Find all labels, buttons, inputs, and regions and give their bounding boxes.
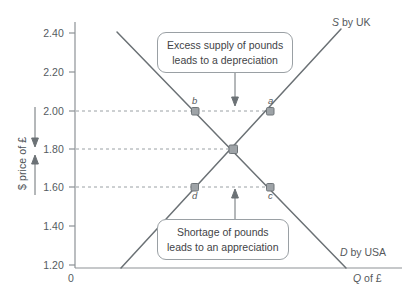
demand-curve-label: D by USA: [340, 246, 386, 258]
axis-origin-label: 0: [68, 272, 74, 284]
y-axis-title: $ price of £: [16, 137, 28, 190]
supply-demand-chart: 2.40 2.20 2.00 1.80 1.60 1.40 1.20 0 $ p…: [0, 0, 407, 295]
supply-curve-rest: by UK: [339, 16, 371, 28]
appreciation-arrow-head: [32, 155, 39, 164]
y-tick-label-220: 2.20: [26, 66, 64, 78]
y-tick-label-240: 2.40: [26, 27, 64, 39]
callout-excess-line1: Excess supply of pounds: [167, 38, 283, 53]
y-tick-label-120: 1.20: [26, 259, 64, 271]
demand-curve-rest: by USA: [348, 246, 387, 258]
point-label-a: a: [268, 95, 273, 106]
marker-point-a: [267, 108, 275, 116]
x-axis-title: Q of £: [353, 272, 382, 284]
demand-curve-symbol: D: [340, 246, 348, 258]
y-tick-label-160: 1.60: [26, 181, 64, 193]
supply-curve-label: S by UK: [332, 16, 371, 28]
y-tick-label-200: 2.00: [26, 105, 64, 117]
marker-equilibrium: [229, 145, 238, 154]
shortage-arrow-head: [232, 189, 239, 198]
guide-lines: [76, 111, 271, 187]
x-axis-symbol: Q: [353, 272, 361, 284]
callout-shortage: Shortage of pounds leads to an appreciat…: [157, 219, 289, 260]
callout-shortage-line2: leads to an appreciation: [167, 240, 279, 255]
callout-excess-line2: leads to a depreciation: [167, 53, 283, 68]
callout-shortage-line1: Shortage of pounds: [167, 225, 279, 240]
supply-curve-symbol: S: [332, 16, 339, 28]
y-axis-ticks: [69, 33, 75, 265]
x-axis-rest: of £: [361, 272, 381, 284]
point-label-c: c: [268, 190, 273, 201]
callout-excess-supply: Excess supply of pounds leads to a depre…: [157, 32, 293, 73]
point-label-b: b: [192, 95, 197, 106]
y-tick-label-180: 1.80: [26, 143, 64, 155]
y-tick-label-140: 1.40: [26, 220, 64, 232]
point-label-d: d: [192, 190, 197, 201]
marker-point-b: [192, 108, 200, 116]
excess-supply-arrow-head: [232, 97, 239, 106]
